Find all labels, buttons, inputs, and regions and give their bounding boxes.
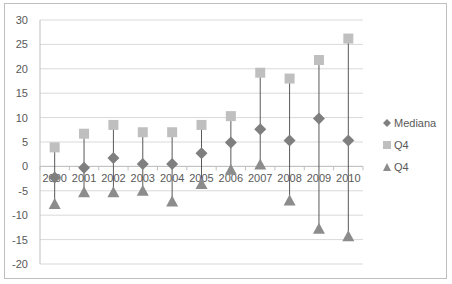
legend-item-mediana: Mediana bbox=[382, 112, 448, 134]
q4-high-marker bbox=[314, 55, 324, 65]
chart-legend: Mediana Q4 Q4 bbox=[382, 112, 448, 178]
q4-low-marker bbox=[107, 186, 119, 197]
q4-low-marker bbox=[166, 196, 178, 207]
y-tick-label: -5 bbox=[18, 185, 28, 197]
median-marker bbox=[313, 113, 325, 125]
x-tick-label: 2002 bbox=[101, 172, 125, 184]
median-marker bbox=[196, 147, 208, 159]
y-tick-label: -20 bbox=[12, 258, 28, 270]
x-tick-label: 2008 bbox=[277, 172, 301, 184]
y-tick-label: -15 bbox=[12, 234, 28, 246]
square-icon bbox=[382, 140, 392, 150]
x-tick-label: 2003 bbox=[131, 172, 155, 184]
q4-low-marker bbox=[225, 164, 237, 175]
y-tick-label: 30 bbox=[16, 14, 28, 26]
q4-low-marker bbox=[284, 195, 296, 206]
x-tick-label: 2001 bbox=[72, 172, 96, 184]
q4-low-marker bbox=[313, 223, 325, 234]
q4-high-marker bbox=[197, 120, 207, 130]
q4-low-marker bbox=[49, 198, 61, 209]
median-marker bbox=[166, 158, 178, 170]
y-tick-label: 0 bbox=[22, 160, 28, 172]
legend-item-q4-high: Q4 bbox=[382, 134, 448, 156]
x-tick-label: 2009 bbox=[307, 172, 331, 184]
q4-low-marker bbox=[342, 230, 354, 241]
q4-high-marker bbox=[167, 127, 177, 137]
y-tick-label: 25 bbox=[16, 38, 28, 50]
legend-label: Q4 bbox=[394, 161, 409, 173]
median-marker bbox=[107, 152, 119, 164]
y-tick-label: 10 bbox=[16, 112, 28, 124]
legend-item-q4-low: Q4 bbox=[382, 156, 448, 178]
q4-low-marker bbox=[78, 186, 90, 197]
triangle-icon bbox=[382, 162, 392, 172]
q4-high-marker bbox=[108, 120, 118, 130]
legend-label: Mediana bbox=[394, 117, 436, 129]
x-tick-label: 2007 bbox=[248, 172, 272, 184]
q4-low-marker bbox=[254, 158, 266, 169]
median-marker bbox=[225, 136, 237, 148]
q4-high-marker bbox=[138, 127, 148, 137]
y-tick-label: 5 bbox=[22, 136, 28, 148]
median-marker bbox=[284, 135, 296, 147]
q4-high-marker bbox=[50, 142, 60, 152]
y-tick-label: 20 bbox=[16, 63, 28, 75]
median-marker bbox=[137, 158, 149, 170]
diamond-icon bbox=[382, 118, 392, 128]
q4-high-marker bbox=[343, 34, 353, 44]
x-tick-label: 2004 bbox=[160, 172, 184, 184]
q4-high-marker bbox=[226, 111, 236, 121]
y-tick-label: -10 bbox=[12, 209, 28, 221]
median-marker bbox=[254, 123, 266, 135]
y-tick-label: 15 bbox=[16, 87, 28, 99]
median-marker bbox=[342, 135, 354, 147]
q4-high-marker bbox=[255, 68, 265, 78]
q4-high-marker bbox=[285, 74, 295, 84]
legend-label: Q4 bbox=[394, 139, 409, 151]
q4-high-marker bbox=[79, 129, 89, 139]
x-tick-label: 2010 bbox=[336, 172, 360, 184]
